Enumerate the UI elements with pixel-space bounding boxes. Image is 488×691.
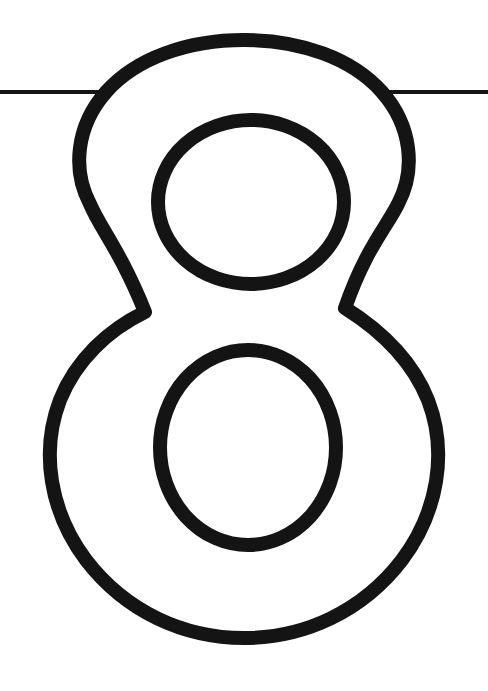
numeral-eight-lower-counter [160, 350, 336, 545]
numeral-eight-glyph [50, 40, 438, 638]
page-canvas: Large hollow outline of the digit eight,… [0, 0, 488, 691]
numeral-eight-upper-counter [158, 120, 344, 284]
coloring-page-artwork: Large hollow outline of the digit eight,… [0, 0, 488, 691]
